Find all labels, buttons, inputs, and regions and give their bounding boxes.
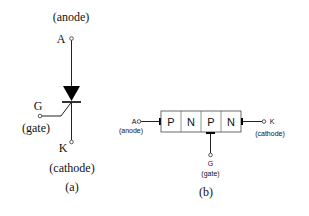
cathode-label-b: (cathode) (255, 130, 285, 138)
gate-diagonal-wire (61, 102, 72, 116)
gate-letter: G (34, 99, 43, 113)
layer-n2: N (227, 116, 235, 128)
cathode-label: (cathode) (49, 161, 94, 175)
thyristor-diagram: (anode) A G (gate) K (cathode) (a) A (an… (0, 0, 309, 216)
cathode-terminal-b-icon (262, 120, 266, 124)
caption-a: (a) (65, 180, 78, 194)
pnpn-structure-diagram: A (anode) P N P N K (cathode) G (gate) (… (119, 111, 285, 199)
diode-triangle-icon (63, 86, 80, 101)
scr-symbol-diagram: (anode) A G (gate) K (cathode) (a) (22, 10, 95, 194)
layer-n1: N (187, 116, 195, 128)
anode-terminal-b-icon (137, 120, 141, 124)
anode-letter-b: A (132, 118, 137, 125)
anode-label-b: (anode) (119, 127, 143, 135)
gate-letter-b: G (208, 160, 213, 167)
cathode-terminal-icon (70, 140, 74, 144)
anode-letter: A (57, 32, 66, 46)
layer-p1: P (167, 116, 174, 128)
anode-terminal-icon (70, 37, 74, 41)
gate-label-b: (gate) (201, 170, 219, 178)
caption-b: (b) (199, 185, 213, 199)
gate-terminal-b-icon (209, 153, 213, 157)
layer-p2: P (207, 116, 214, 128)
gate-terminal-icon (38, 114, 42, 118)
cathode-letter-b: K (270, 118, 275, 125)
cathode-contact-icon (241, 118, 243, 125)
gate-contact-icon (206, 132, 215, 134)
gate-label: (gate) (22, 121, 50, 135)
anode-label: (anode) (53, 10, 90, 24)
cathode-letter: K (59, 141, 68, 155)
